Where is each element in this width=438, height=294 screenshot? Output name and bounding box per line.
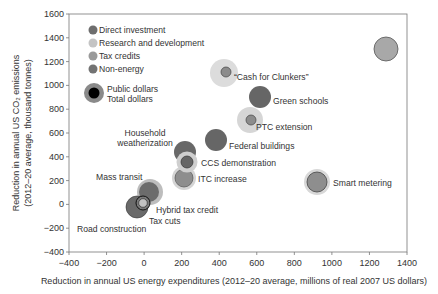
x-tick-label: 1400	[397, 258, 417, 268]
label-hybrid-tax-credit: Hybrid tax credit	[156, 205, 219, 215]
bubble-green-schools	[249, 86, 271, 108]
x-tick-label: 200	[174, 258, 189, 268]
x-tick-label: 0	[142, 258, 147, 268]
legend-size-inner	[89, 88, 100, 99]
label-cash-for-clunkers: “Cash for Clunkers”	[234, 72, 309, 82]
label-itc-increase: ITC increase	[198, 174, 247, 184]
y-tick-label: 1400	[44, 33, 64, 43]
label-ccs-demonstration: CCS demonstration	[201, 158, 276, 168]
x-tick-label: 1200	[359, 258, 379, 268]
x-tick-label: 600	[249, 258, 264, 268]
x-axis: −400−2000200400600800100012001400	[59, 252, 417, 268]
label-federal-buildings: Federal buildings	[229, 141, 294, 151]
label-tax-cuts: Tax cuts	[149, 216, 181, 226]
legend-label-research-development: Research and development	[99, 38, 205, 48]
label-household-weatherization-2: weatherization	[116, 138, 173, 148]
y-axis: −400−20002004006008001000120014001600	[44, 9, 69, 257]
bubble-ccs-demonstration-inner	[181, 156, 193, 168]
x-tick-label: 1000	[322, 258, 342, 268]
x-tick-label: 800	[287, 258, 302, 268]
y-axis-title-line2: (2012–20 average, thousand tonnes)	[23, 59, 33, 207]
x-tick-label: −400	[59, 258, 79, 268]
x-tick-label: 400	[212, 258, 227, 268]
y-axis-title: Reduction in annual US CO₂ emissions	[11, 54, 21, 211]
legend-label-public-dollars: Public dollars	[107, 84, 158, 94]
bubble-federal-buildings	[205, 129, 227, 151]
label-household-weatherization-1: Household	[124, 128, 165, 138]
legend-label-tax-credits: Tax credits	[99, 51, 140, 61]
x-tick-label: −200	[96, 258, 116, 268]
y-tick-label: 200	[49, 176, 64, 186]
bubble-ptc-extension-inner	[246, 115, 256, 125]
y-tick-label: −200	[44, 223, 64, 233]
y-tick-label: 800	[49, 104, 64, 114]
y-tick-label: −400	[44, 247, 64, 257]
label-green-schools: Green schools	[273, 96, 328, 106]
legend-swatch-research-development	[89, 39, 98, 48]
label-road-construction: Road construction	[77, 224, 146, 234]
y-tick-label: 1200	[44, 57, 64, 67]
bubble-smart-metering-inner	[307, 172, 327, 192]
legend-label-direct-investment: Direct investment	[99, 25, 166, 35]
y-axis-title-2: (2012–20 average, thousand tonnes)	[23, 59, 33, 207]
bubble-chart: −400−20002004006008001000120014001600 −4…	[0, 0, 438, 294]
legend-swatch-direct-investment	[89, 26, 98, 35]
label-smart-metering: Smart metering	[333, 178, 392, 188]
bubble-cash-for-clunkers-inner	[221, 67, 231, 77]
legend-swatch-non-energy	[89, 65, 98, 74]
plot-area	[69, 14, 407, 252]
y-tick-label: 600	[49, 128, 64, 138]
legend-swatch-tax-credits	[89, 52, 98, 61]
label-mass-transit: Mass transit	[96, 172, 143, 182]
label-ptc-extension: PTC extension	[256, 122, 313, 132]
bubble-unlabeled	[374, 37, 398, 61]
y-axis-title-line1: Reduction in annual US CO₂ emissions	[11, 54, 21, 211]
y-tick-label: 400	[49, 152, 64, 162]
legend-label-non-energy: Non-energy	[99, 64, 145, 74]
y-tick-label: 0	[59, 199, 64, 209]
x-axis-title: Reduction in annual US energy expenditur…	[41, 276, 427, 286]
legend-label-total-dollars: Total dollars	[107, 94, 153, 104]
y-tick-label: 1000	[44, 80, 64, 90]
y-tick-label: 1600	[44, 9, 64, 19]
bubble-hybrid-tax-credit-inner	[139, 199, 148, 208]
